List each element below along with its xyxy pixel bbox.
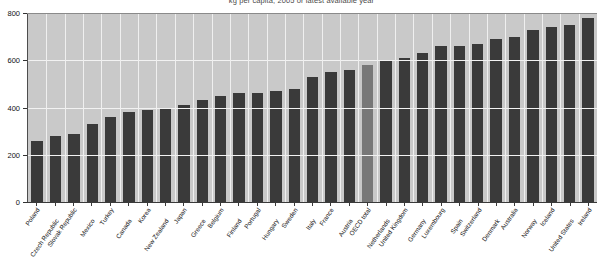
bar [472,44,483,202]
x-label-cell: Norway [524,206,542,272]
vertical-gridline [377,13,378,202]
x-label-cell: Ireland [579,206,597,272]
chart-title: kg per capita, 2005 or latest available … [0,0,603,5]
x-label-cell: Austria [340,206,358,272]
vertical-gridline [340,13,341,202]
bar [582,18,593,202]
y-tick-label: 400 [7,103,20,112]
bar [307,77,318,202]
vertical-gridline [487,13,488,202]
x-label-cell: Australia [505,206,523,272]
bar [252,93,263,202]
horizontal-gridline [28,108,597,109]
vertical-gridline [193,13,194,202]
bar [68,134,79,203]
x-axis-category-label: Iceland [539,207,556,228]
bar [435,46,446,202]
vertical-gridline [267,13,268,202]
bar [344,70,355,202]
bar [509,37,520,202]
vertical-gridline [358,13,359,202]
vertical-gridline [120,13,121,202]
bar [289,89,300,202]
x-axis-labels: PolandCzech RepublicSlovak RepublicMexic… [27,206,597,272]
bar [325,72,336,202]
x-label-cell: Slovak Republic [64,206,82,272]
x-label-cell: United States [560,206,578,272]
x-axis-category-label: Italy [305,218,317,231]
bar [233,93,244,202]
chart-page: kg per capita, 2005 or latest available … [0,0,603,272]
x-label-cell: Japan [174,206,192,272]
vertical-gridline [413,13,414,202]
x-axis-category-label: Korea [137,207,152,225]
vertical-gridline [524,13,525,202]
vertical-gridline [285,13,286,202]
vertical-gridline [138,13,139,202]
vertical-gridline [212,13,213,202]
x-axis-category-label: France [319,207,336,227]
plot-top-border [27,13,597,14]
vertical-gridline [101,13,102,202]
bar [142,110,153,202]
x-axis-category-label: Poland [25,207,42,227]
x-label-cell: Denmark [487,206,505,272]
vertical-gridline [542,13,543,202]
bar [380,60,391,202]
x-label-cell: Sweden [284,206,302,272]
vertical-gridline [432,13,433,202]
y-axis: 0200400600800 [0,13,27,202]
bar [399,58,410,202]
bar [105,117,116,202]
x-axis-category-label: Greece [190,218,207,239]
x-axis-category-label: Norway [520,218,538,239]
vertical-gridline [560,13,561,202]
x-label-cell: Turkey [101,206,119,272]
x-axis-category-label: Mexico [80,218,97,238]
vertical-gridline [303,13,304,202]
bar [490,39,501,202]
vertical-gridline [230,13,231,202]
x-label-cell: Finland [229,206,247,272]
y-tick-label: 600 [7,56,20,65]
x-label-cell: Spain [450,206,468,272]
x-axis-category-label: Turkey [99,207,115,226]
x-label-cell: Canada [119,206,137,272]
plot-area [27,13,597,202]
bar [564,25,575,202]
y-tick-label: 0 [16,198,20,207]
x-axis-category-label: Ireland [577,207,593,227]
bar [527,30,538,202]
vertical-gridline [579,13,580,202]
bar [546,27,557,202]
x-label-cell: France [321,206,339,272]
bar [454,46,465,202]
vertical-gridline [65,13,66,202]
vertical-gridline [83,13,84,202]
vertical-gridline [322,13,323,202]
vertical-gridline [46,13,47,202]
y-tick-label: 200 [7,150,20,159]
bar [87,124,98,202]
vertical-gridline [395,13,396,202]
bar [178,105,189,202]
bar [123,112,134,202]
horizontal-gridline [28,60,597,61]
bar [215,96,226,202]
vertical-gridline [450,13,451,202]
bar [31,141,42,202]
vertical-gridline [469,13,470,202]
x-label-cell: Hungary [266,206,284,272]
x-label-cell: Mexico [82,206,100,272]
vertical-gridline [248,13,249,202]
vertical-gridline [175,13,176,202]
y-tick-label: 800 [7,9,20,18]
x-label-cell: Germany [413,206,431,272]
bar [197,100,208,202]
vertical-gridline [505,13,506,202]
x-label-cell: Belgium [211,206,229,272]
x-axis-category-label: Finland [226,218,243,239]
x-label-cell: Luxembourg [432,206,450,272]
horizontal-gridline [28,155,597,156]
x-label-cell: Greece [193,206,211,272]
